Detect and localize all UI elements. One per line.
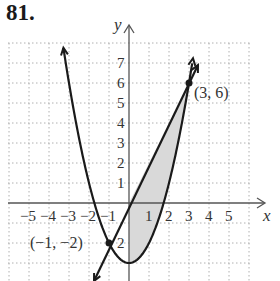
intersection-point-3-6 bbox=[186, 80, 193, 87]
x-tick-label: −4 bbox=[40, 208, 56, 224]
graph: x y −5−4−3−2−112345 1234567 2 (3, 6) (−1… bbox=[0, 0, 280, 281]
x-tick-label: −1 bbox=[100, 208, 116, 224]
x-tick-label: 2 bbox=[165, 208, 173, 224]
neg-y-tick-label: 2 bbox=[117, 235, 125, 251]
x-tick-label: 3 bbox=[185, 208, 193, 224]
x-tick-label: 1 bbox=[145, 208, 153, 224]
y-tick-label: 6 bbox=[117, 75, 125, 91]
x-tick-label: −2 bbox=[80, 208, 96, 224]
x-tick-label: −3 bbox=[60, 208, 76, 224]
x-axis-label: x bbox=[262, 206, 271, 225]
shaded-region bbox=[129, 83, 189, 263]
x-tick-label: −5 bbox=[20, 208, 36, 224]
y-tick-label: 3 bbox=[117, 135, 125, 151]
y-tick-label: 2 bbox=[117, 155, 125, 171]
point-label-neg1-neg2: (−1, −2) bbox=[30, 234, 83, 252]
y-axis-label: y bbox=[112, 15, 122, 34]
x-tick-label: 5 bbox=[225, 208, 233, 224]
y-tick-label: 1 bbox=[117, 175, 125, 191]
point-label-3-6: (3, 6) bbox=[194, 84, 229, 102]
x-tick-label: 4 bbox=[205, 208, 213, 224]
y-tick-label: 4 bbox=[117, 115, 125, 131]
y-tick-label: 5 bbox=[117, 95, 125, 111]
y-tick-labels: 1234567 bbox=[117, 55, 125, 191]
y-tick-label: 7 bbox=[117, 55, 125, 71]
intersection-point-neg1-neg2 bbox=[106, 240, 113, 247]
